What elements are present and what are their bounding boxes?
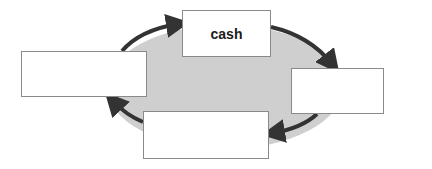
cycle-node-right — [291, 68, 384, 114]
cycle-node-top: cash — [182, 10, 271, 57]
cycle-node-left — [21, 51, 147, 97]
cycle-node-bottom — [143, 111, 269, 159]
node-label: cash — [211, 26, 243, 42]
